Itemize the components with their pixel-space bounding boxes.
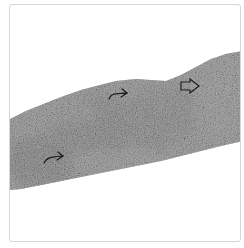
micrograph-image <box>10 5 241 242</box>
tissue-band <box>10 41 241 201</box>
micrograph-frame <box>9 4 241 242</box>
